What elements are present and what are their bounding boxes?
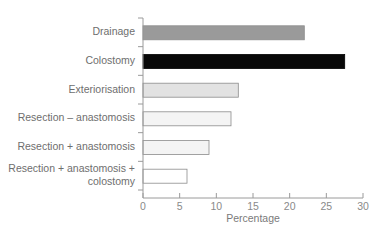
x-tick-label: 15: [238, 200, 268, 212]
x-tick-label: 20: [275, 200, 305, 212]
category-label-line-1: Resection + anastomosis +: [8, 162, 135, 175]
x-axis-label: Percentage: [223, 212, 283, 224]
category-label-colostomy: Colostomy: [85, 54, 135, 67]
bar-chart: Drainage Colostomy Exteriorisation Resec…: [0, 0, 379, 238]
bar-2: [143, 83, 238, 97]
x-tick-label: 0: [128, 200, 158, 212]
category-label-exteriorisation: Exteriorisation: [68, 83, 135, 96]
x-tick-label: 10: [201, 200, 231, 212]
bar-1: [143, 55, 345, 69]
category-label-line-2: colostomy: [8, 175, 135, 188]
bar-0: [143, 26, 304, 40]
category-label-resection-anastomosis-colostomy: Resection + anastomosis + colostomy: [8, 162, 135, 188]
category-label-drainage: Drainage: [92, 25, 135, 38]
x-tick-label: 25: [311, 200, 341, 212]
category-label-resection-minus-anastomosis: Resection – anastomosis: [18, 111, 135, 124]
category-label-resection-plus-anastomosis: Resection + anastomosis: [17, 140, 135, 153]
x-tick-label: 5: [165, 200, 195, 212]
bar-4: [143, 141, 209, 155]
bar-3: [143, 112, 231, 126]
bar-5: [143, 169, 187, 183]
x-tick-label: 30: [348, 200, 378, 212]
